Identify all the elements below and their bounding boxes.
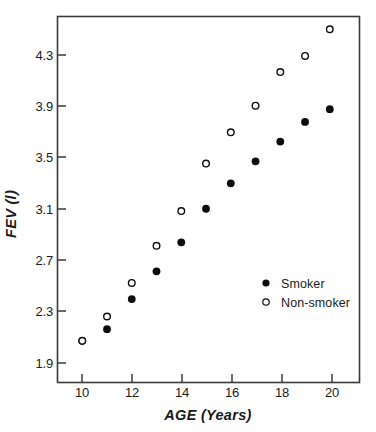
y-axis-ticks [58,55,67,363]
y-tick-label: 4.3 [36,48,53,63]
chart-figure: 1.9 2.3 2.7 3.1 3.5 3.9 4.3 10 12 14 16 … [0,0,376,432]
x-axis-tick-labels: 10 12 14 16 18 20 [75,385,339,400]
data-point [227,179,235,187]
x-tick-label: 12 [125,385,139,400]
chart-legend: Smoker Non-smoker [262,277,350,310]
y-tick-label: 2.7 [36,253,53,268]
scatter-plot: 1.9 2.3 2.7 3.1 3.5 3.9 4.3 10 12 14 16 … [0,0,376,432]
data-point [277,69,284,76]
legend-marker-smoker-icon [262,279,269,286]
data-point [252,102,259,109]
legend-label-non-smoker: Non-smoker [281,296,350,310]
data-point [326,105,334,113]
data-point [128,295,136,303]
data-point [178,208,185,215]
plot-frame [58,17,360,383]
x-axis-ticks [82,374,332,383]
data-point [301,118,309,126]
data-point [153,267,161,275]
data-point [302,53,309,60]
data-point [104,313,111,320]
y-axis-tick-labels: 1.9 2.3 2.7 3.1 3.5 3.9 4.3 [36,48,53,371]
x-tick-label: 10 [75,385,89,400]
y-tick-label: 3.9 [36,99,53,114]
data-point [153,243,160,250]
x-tick-label: 16 [225,385,239,400]
data-point [202,205,210,213]
y-tick-label: 2.3 [36,304,53,319]
x-tick-label: 18 [275,385,289,400]
data-point [128,280,135,287]
data-point [103,325,111,333]
legend-marker-non-smoker-icon [263,299,269,305]
x-tick-label: 14 [175,385,189,400]
data-point [276,138,284,146]
y-tick-label: 1.9 [36,356,53,371]
legend-label-smoker: Smoker [281,277,325,291]
data-point [79,338,86,345]
x-axis-title: AGE (Years) [163,407,251,423]
y-tick-label: 3.1 [36,202,53,217]
data-point [203,160,210,167]
y-tick-label: 3.5 [36,150,53,165]
data-point [177,238,185,246]
data-point [227,129,234,136]
data-point [327,26,334,33]
x-tick-label: 20 [325,385,339,400]
data-point [252,157,260,165]
y-axis-title: FEV (l) [3,190,19,238]
